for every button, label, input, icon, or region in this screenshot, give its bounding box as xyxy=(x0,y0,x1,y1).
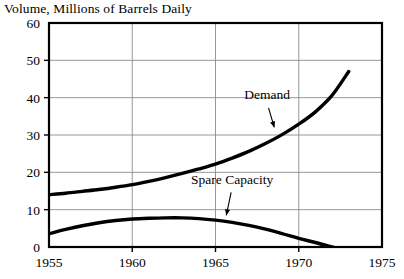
series-annotation-label: Spare Capacity xyxy=(191,172,273,187)
chart-figure: Volume, Millions of Barrels Daily Demand… xyxy=(0,0,404,279)
data-series-group xyxy=(49,72,349,252)
chart-plot-area: DemandSpare Capacity 0102030405060 19551… xyxy=(0,0,404,279)
y-axis-tick-label: 50 xyxy=(27,53,41,68)
annotation-group: DemandSpare Capacity xyxy=(191,87,290,215)
y-axis-tick-labels: 0102030405060 xyxy=(27,16,41,255)
x-axis-tick-label: 1960 xyxy=(119,255,146,270)
x-axis-tick-label: 1955 xyxy=(36,255,63,270)
y-axis-tick-label: 40 xyxy=(27,91,41,106)
x-axis-tick-label: 1965 xyxy=(202,255,229,270)
series-annotation-label: Demand xyxy=(244,87,290,102)
x-axis-tick-labels: 19551960196519701975 xyxy=(36,255,396,270)
y-axis-tick-label: 10 xyxy=(27,203,41,218)
y-axis-tick-label: 20 xyxy=(27,165,41,180)
y-axis-tick-label: 30 xyxy=(27,128,41,143)
y-axis-tick-label: 0 xyxy=(33,240,40,255)
x-axis-tick-label: 1970 xyxy=(285,255,312,270)
annotation-arrowhead xyxy=(225,209,230,215)
x-axis-tick-label: 1975 xyxy=(369,255,396,270)
gridlines xyxy=(49,23,382,247)
annotation-arrowhead xyxy=(270,121,275,127)
y-axis-tick-label: 60 xyxy=(27,16,41,31)
